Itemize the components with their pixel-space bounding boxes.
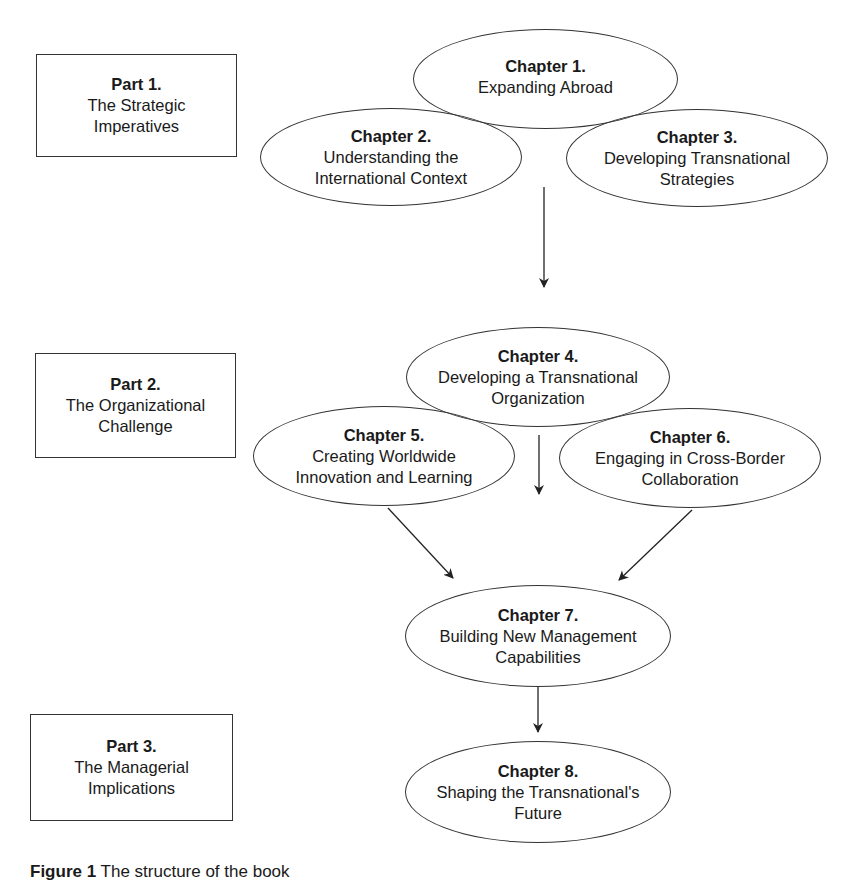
chapter-7-title: Chapter 7. [498, 605, 579, 626]
chapter-6-subtitle: Engaging in Cross-Border Collaboration [595, 448, 785, 490]
chapter-6-node: Chapter 6. Engaging in Cross-Border Coll… [559, 408, 821, 508]
chapter-4-subtitle: Developing a Transnational Organization [438, 367, 638, 409]
chapter-7-subtitle: Building New Management Capabilities [439, 626, 636, 668]
chapter-4-title: Chapter 4. [498, 346, 579, 367]
chapter-2-title: Chapter 2. [351, 126, 432, 147]
part-2-title: Part 2. [110, 374, 160, 395]
chapter-1-title: Chapter 1. [505, 56, 586, 77]
figure-caption-text: The structure of the book [101, 862, 290, 881]
figure-caption: Figure 1 The structure of the book [30, 862, 290, 882]
chapter-1-subtitle: Expanding Abroad [478, 77, 613, 98]
chapter-5-node: Chapter 5. Creating Worldwide Innovation… [253, 406, 515, 506]
chapter-3-title: Chapter 3. [657, 127, 738, 148]
chapter-8-subtitle: Shaping the Transnational's Future [436, 782, 639, 824]
chapter-3-subtitle: Developing Transnational Strategies [604, 148, 790, 190]
chapter-2-subtitle: Understanding the International Context [315, 147, 467, 189]
arrow-ch6-to-ch7 [619, 510, 692, 580]
part-1-subtitle: The Strategic Imperatives [87, 95, 185, 137]
chapter-6-title: Chapter 6. [650, 427, 731, 448]
part-3-box: Part 3. The Managerial Implications [30, 714, 233, 821]
chapter-8-title: Chapter 8. [498, 761, 579, 782]
chapter-8-node: Chapter 8. Shaping the Transnational's F… [405, 741, 671, 843]
chapter-7-node: Chapter 7. Building New Management Capab… [405, 585, 671, 687]
chapter-5-title: Chapter 5. [344, 425, 425, 446]
part-3-subtitle: The Managerial Implications [74, 757, 189, 799]
arrow-ch5-to-ch7 [388, 508, 453, 578]
chapter-3-node: Chapter 3. Developing Transnational Stra… [566, 109, 828, 207]
chapter-2-node: Chapter 2. Understanding the Internation… [260, 108, 522, 206]
part-3-title: Part 3. [106, 736, 156, 757]
figure-caption-label: Figure 1 [30, 862, 96, 881]
part-1-title: Part 1. [111, 74, 161, 95]
part-1-box: Part 1. The Strategic Imperatives [36, 54, 237, 157]
chapter-5-subtitle: Creating Worldwide Innovation and Learni… [295, 446, 472, 488]
part-2-box: Part 2. The Organizational Challenge [35, 353, 236, 458]
part-2-subtitle: The Organizational Challenge [66, 395, 205, 437]
